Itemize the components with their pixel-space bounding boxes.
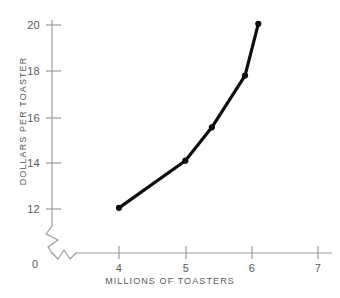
x-tick-label-6: 6: [249, 262, 255, 274]
chart-plot-area: [0, 0, 340, 298]
chart-container: 20 18 16 14 12 4 5 6 7 0 MILLIONS OF TOA…: [0, 0, 340, 298]
x-axis-break-icon: [52, 250, 76, 259]
y-axis-title: DOLLARS PER TOASTER: [18, 36, 28, 206]
x-axis-title: MILLIONS OF TOASTERS: [0, 276, 340, 286]
x-tick-label-5: 5: [183, 262, 189, 274]
y-axis-break-icon: [46, 226, 58, 253]
data-point-markers: [116, 21, 262, 211]
data-point: [242, 73, 248, 79]
origin-label: 0: [32, 258, 38, 270]
x-tick-label-7: 7: [315, 262, 321, 274]
y-tick-label-20: 20: [0, 19, 40, 31]
data-point: [255, 21, 261, 27]
data-point: [209, 124, 215, 130]
data-series-line: [119, 24, 258, 208]
y-axis-ticks: [46, 25, 61, 209]
x-tick-label-4: 4: [116, 262, 122, 274]
data-point: [182, 158, 188, 164]
data-point: [116, 205, 122, 211]
